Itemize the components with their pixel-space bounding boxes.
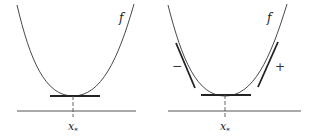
left-curve-f — [17, 4, 134, 96]
left-panel: f x* — [17, 4, 136, 135]
right-xstar-label: x* — [220, 120, 230, 135]
plus-sign-label: + — [275, 60, 285, 74]
left-f-label: f — [118, 11, 126, 25]
right-panel: − + f x* — [168, 4, 301, 135]
diagram-canvas: f x* − + f x* — [0, 0, 314, 139]
minus-sign-label: − — [172, 59, 182, 73]
left-xstar-label: x* — [68, 120, 78, 135]
right-f-label: f — [266, 11, 274, 25]
